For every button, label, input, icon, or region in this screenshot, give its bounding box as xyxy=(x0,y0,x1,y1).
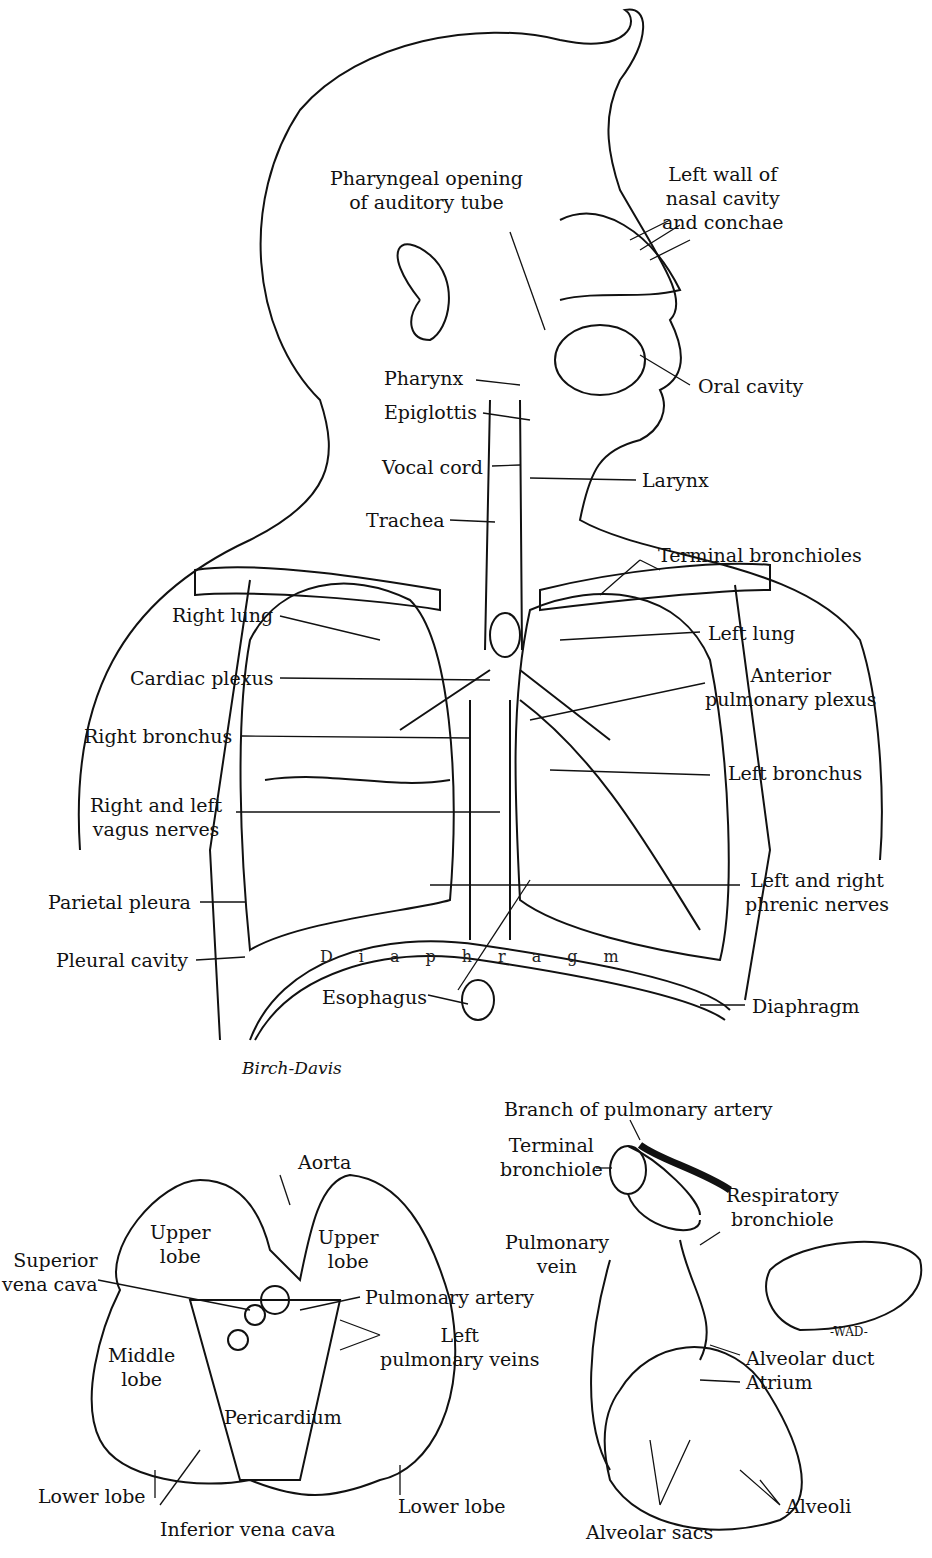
label-lower-lobe-right: Lower lobe xyxy=(38,1484,146,1508)
right-lung xyxy=(241,584,454,950)
label-atrium: Atrium xyxy=(746,1370,812,1394)
label-pharyngeal-opening: Pharyngeal opening of auditory tube xyxy=(330,166,523,214)
label-left-pulmonary-veins: Left pulmonary veins xyxy=(380,1323,539,1371)
label-parietal-pleura: Parietal pleura xyxy=(48,890,191,914)
label-branch-pulmonary-artery: Branch of pulmonary artery xyxy=(504,1097,773,1121)
label-larynx: Larynx xyxy=(642,468,709,492)
label-terminal-bronchiole: Terminal bronchiole xyxy=(500,1133,603,1181)
label-lower-lobe-left: Lower lobe xyxy=(398,1494,506,1518)
label-pulmonary-artery: Pulmonary artery xyxy=(365,1285,534,1309)
label-alveoli: Alveoli xyxy=(786,1494,851,1518)
label-left-bronchus: Left bronchus xyxy=(728,761,862,785)
label-alveolar-duct: Alveolar duct xyxy=(746,1346,874,1370)
ear xyxy=(398,244,449,340)
label-right-lung: Right lung xyxy=(172,603,273,627)
label-cardiac-plexus: Cardiac plexus xyxy=(130,666,273,690)
label-pericardium: Pericardium xyxy=(224,1405,342,1429)
label-vocal-cord: Vocal cord xyxy=(382,455,483,479)
label-right-bronchus: Right bronchus xyxy=(84,724,232,748)
label-oral-cavity: Oral cavity xyxy=(698,374,803,398)
label-upper-lobe-right: Upper lobe xyxy=(150,1220,211,1268)
label-vagus-nerves: Right and left vagus nerves xyxy=(90,793,222,841)
label-phrenic-nerves: Left and right phrenic nerves xyxy=(745,868,889,916)
label-terminal-bronchioles: Terminal bronchioles xyxy=(658,543,862,567)
label-respiratory-bronchiole: Respiratory bronchiole xyxy=(726,1183,839,1231)
artist-signature: Birch-Davis xyxy=(242,1058,342,1078)
label-trachea: Trachea xyxy=(366,508,445,532)
label-upper-lobe-left: Upper lobe xyxy=(318,1225,379,1273)
label-pharynx: Pharynx xyxy=(384,366,463,390)
label-superior-vena-cava: Superior vena cava xyxy=(2,1248,98,1296)
artist-signature-wad: -WAD- xyxy=(830,1325,868,1339)
label-esophagus: Esophagus xyxy=(322,985,427,1009)
diaphragm-inscription: Diaphragm xyxy=(320,947,645,966)
label-diaphragm: Diaphragm xyxy=(752,994,860,1018)
label-left-wall-nasal: Left wall of nasal cavity and conchae xyxy=(662,162,784,234)
label-alveolar-sacs: Alveolar sacs xyxy=(586,1520,713,1544)
label-anterior-pulmonary-plexus: Anterior pulmonary plexus xyxy=(705,663,877,711)
label-epiglottis: Epiglottis xyxy=(384,400,477,424)
label-left-lung: Left lung xyxy=(708,621,795,645)
label-middle-lobe: Middle lobe xyxy=(108,1343,175,1391)
label-aorta: Aorta xyxy=(298,1150,351,1174)
label-pleural-cavity: Pleural cavity xyxy=(56,948,188,972)
label-inferior-vena-cava: Inferior vena cava xyxy=(160,1517,335,1541)
left-lung xyxy=(516,594,729,960)
label-pulmonary-vein: Pulmonary vein xyxy=(505,1230,609,1278)
alveolar-duct xyxy=(680,1240,707,1360)
